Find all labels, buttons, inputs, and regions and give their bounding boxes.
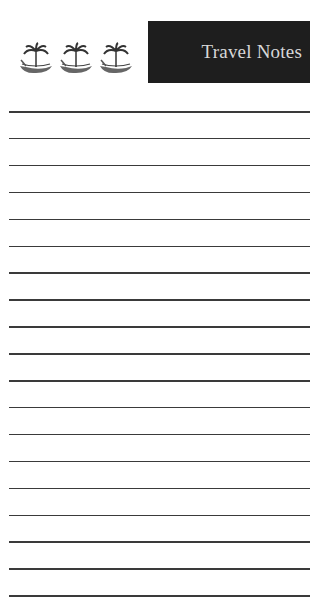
ruled-line	[9, 434, 310, 436]
title-banner: Travel Notes	[148, 21, 310, 83]
ruled-line	[9, 246, 310, 248]
boat-palm-icon	[18, 42, 54, 78]
ruled-line	[9, 219, 310, 221]
ruled-line	[9, 138, 310, 140]
ruled-line	[9, 326, 310, 328]
ruled-line	[9, 192, 310, 194]
ruled-line	[9, 165, 310, 167]
ruled-line	[9, 515, 310, 517]
ruled-line	[9, 299, 310, 301]
header-illustrations	[18, 42, 134, 78]
ruled-line	[9, 380, 310, 382]
boat-palm-icon	[98, 42, 134, 78]
ruled-line	[9, 488, 310, 490]
ruled-line	[9, 353, 310, 355]
ruled-line	[9, 541, 310, 543]
ruled-line	[9, 595, 310, 597]
ruled-line	[9, 461, 310, 463]
ruled-line	[9, 272, 310, 274]
ruled-line	[9, 568, 310, 570]
boat-palm-icon	[58, 42, 94, 78]
page-title: Travel Notes	[202, 41, 310, 63]
ruled-line	[9, 407, 310, 409]
ruled-line	[9, 111, 310, 113]
